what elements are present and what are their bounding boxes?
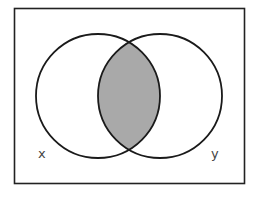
set-x-label: x [38,146,46,161]
venn-diagram: x y [0,0,262,197]
set-y-label: y [211,146,219,161]
